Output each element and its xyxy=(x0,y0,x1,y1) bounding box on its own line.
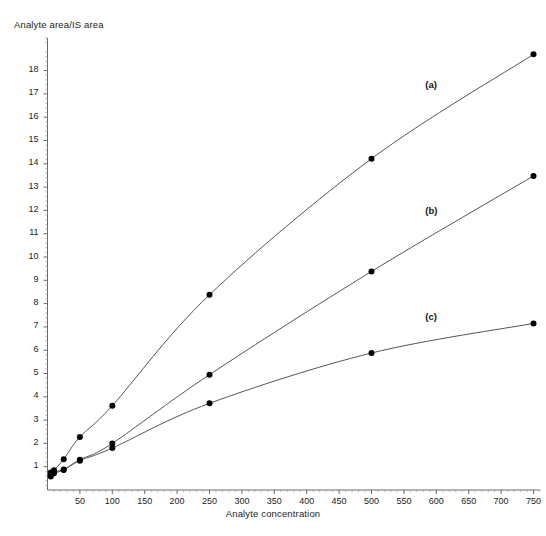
x-tick-label-450: 450 xyxy=(322,496,356,506)
data-point xyxy=(61,467,67,473)
x-tick-label-150: 150 xyxy=(128,496,162,506)
y-tick-label-4: 4 xyxy=(17,390,39,400)
y-tick-label-3: 3 xyxy=(17,414,39,424)
y-tick-label-11: 11 xyxy=(17,227,39,237)
data-point xyxy=(207,372,213,378)
x-ticks-group xyxy=(54,490,540,494)
y-tick-label-12: 12 xyxy=(17,204,39,214)
plot-canvas xyxy=(0,0,546,536)
curve-a xyxy=(51,54,534,472)
data-point xyxy=(369,268,375,274)
y-tick-label-9: 9 xyxy=(17,274,39,284)
data-point xyxy=(531,173,537,179)
x-tick-label-550: 550 xyxy=(387,496,421,506)
curve-c xyxy=(51,323,534,476)
curve-annotation-c: (c) xyxy=(425,311,437,322)
figure-container: Analyte area/IS area 1234567891011121314… xyxy=(0,0,546,536)
x-tick-label-350: 350 xyxy=(257,496,291,506)
curve-b xyxy=(51,176,534,476)
data-point xyxy=(369,156,375,162)
data-point xyxy=(369,350,375,356)
y-tick-label-5: 5 xyxy=(17,367,39,377)
y-tick-label-1: 1 xyxy=(17,460,39,470)
y-tick-label-6: 6 xyxy=(17,344,39,354)
data-point xyxy=(531,320,537,326)
y-tick-label-8: 8 xyxy=(17,297,39,307)
x-tick-label-300: 300 xyxy=(225,496,259,506)
curve-annotation-a: (a) xyxy=(425,79,437,90)
data-point xyxy=(77,434,83,440)
data-point xyxy=(531,51,537,57)
y-tick-label-16: 16 xyxy=(17,111,39,121)
data-point xyxy=(109,403,115,409)
y-tick-label-2: 2 xyxy=(17,437,39,447)
y-tick-label-17: 17 xyxy=(17,87,39,97)
x-tick-label-200: 200 xyxy=(160,496,194,506)
x-tick-label-100: 100 xyxy=(95,496,129,506)
y-tick-label-15: 15 xyxy=(17,134,39,144)
x-tick-label-700: 700 xyxy=(484,496,518,506)
y-tick-label-13: 13 xyxy=(17,181,39,191)
x-tick-label-750: 750 xyxy=(517,496,546,506)
data-point xyxy=(207,400,213,406)
y-ticks-group xyxy=(44,38,48,485)
data-point xyxy=(51,470,57,476)
x-tick-label-400: 400 xyxy=(290,496,324,506)
x-tick-label-650: 650 xyxy=(452,496,486,506)
x-tick-label-50: 50 xyxy=(63,496,97,506)
x-axis-title: Analyte concentration xyxy=(0,508,546,519)
x-tick-label-600: 600 xyxy=(419,496,453,506)
data-points-group xyxy=(48,51,537,479)
y-tick-label-10: 10 xyxy=(17,251,39,261)
curves-group xyxy=(51,54,534,476)
y-tick-label-7: 7 xyxy=(17,320,39,330)
data-point xyxy=(61,456,67,462)
y-tick-label-18: 18 xyxy=(17,64,39,74)
data-point xyxy=(109,445,115,451)
data-point xyxy=(77,458,83,464)
data-point xyxy=(207,292,213,298)
y-tick-label-14: 14 xyxy=(17,157,39,167)
x-tick-label-500: 500 xyxy=(355,496,389,506)
x-tick-label-250: 250 xyxy=(193,496,227,506)
axes-group xyxy=(48,38,541,490)
curve-annotation-b: (b) xyxy=(425,205,437,216)
